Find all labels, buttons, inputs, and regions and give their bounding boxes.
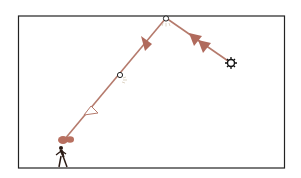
sun-icon xyxy=(225,57,237,69)
frame xyxy=(19,16,285,168)
open-arrow-icon xyxy=(84,106,98,115)
mid-point-icon xyxy=(117,72,122,77)
reflected-ray xyxy=(64,18,166,140)
glow-icon xyxy=(122,77,127,83)
reflection-point-icon xyxy=(163,16,168,21)
ray-diagram xyxy=(0,0,301,178)
filled-arrow-icon xyxy=(141,36,152,51)
double-arrow-icon xyxy=(189,33,211,53)
observer-person-icon xyxy=(56,146,67,167)
eye-blob-icon xyxy=(58,136,74,144)
glow-icon xyxy=(162,23,170,27)
